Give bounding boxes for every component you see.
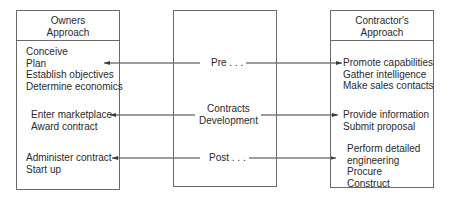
owners-approach-header: Owners Approach (17, 11, 119, 41)
contractor-item: Promote capabilities (343, 57, 434, 69)
phase-line: Contracts (199, 103, 258, 115)
contractor-item: Submit proposal (343, 121, 429, 133)
owners-item: Award contract (31, 121, 112, 133)
owners-group-pre: Conceive Plan Establish objectives Deter… (26, 46, 123, 92)
contractor-item: engineering (347, 155, 420, 167)
header-line: Approach (331, 27, 433, 39)
owners-item: Conceive (26, 46, 123, 58)
owners-item: Plan (26, 58, 123, 70)
contractor-item: Perform detailed (347, 143, 420, 155)
owners-group-contracts: Enter marketplace Award contract (31, 109, 112, 132)
owners-item: Start up (26, 164, 112, 176)
phase-post-label: Post . . . (206, 152, 249, 164)
phase-line: Post . . . (209, 152, 246, 164)
contractor-item: Procure (347, 166, 420, 178)
contractor-group-pre: Promote capabilities Gather intelligence… (343, 57, 434, 92)
owners-item: Administer contract (26, 152, 112, 164)
owners-item: Enter marketplace (31, 109, 112, 121)
owners-item: Establish objectives (26, 69, 123, 81)
contractor-item: Gather intelligence (343, 69, 434, 81)
header-line: Approach (17, 27, 119, 39)
owners-item: Determine economics (26, 81, 123, 93)
contractor-item: Make sales contacts (343, 80, 434, 92)
phase-contracts-label: Contracts Development (196, 103, 261, 126)
owners-group-post: Administer contract Start up (26, 152, 112, 175)
header-line: Owners (17, 15, 119, 27)
contractor-group-post: Perform detailed engineering Procure Con… (347, 143, 420, 189)
contractor-item: Provide information (343, 109, 429, 121)
contractor-approach-header: Contractor's Approach (331, 11, 433, 41)
phase-line: Pre . . . (211, 57, 243, 69)
phase-line: Development (199, 115, 258, 127)
header-line: Contractor's (331, 15, 433, 27)
contractor-item: Construct (347, 178, 420, 190)
contractor-group-contracts: Provide information Submit proposal (343, 109, 429, 132)
phase-pre-label: Pre . . . (208, 57, 246, 69)
